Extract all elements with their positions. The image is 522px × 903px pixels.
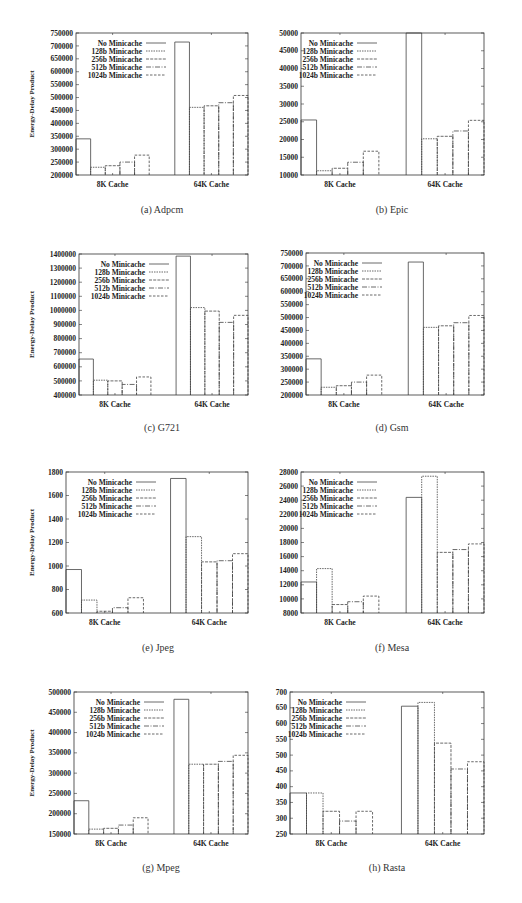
bar: [408, 262, 423, 395]
bar: [301, 582, 317, 613]
bar: [66, 570, 81, 613]
bar: [133, 818, 148, 834]
y-axis-label: Energy-Delay Product: [28, 70, 36, 138]
y-tick-label: 450000: [49, 708, 72, 717]
bar: [422, 476, 438, 613]
bar: [204, 764, 219, 834]
bar: [233, 554, 248, 613]
y-tick-label: 450000: [281, 326, 304, 335]
bar: [218, 761, 233, 834]
bar: [91, 167, 106, 175]
bar: [469, 315, 484, 395]
x-category-label: 8K Cache: [97, 180, 129, 189]
bar: [202, 562, 217, 613]
bar: [205, 311, 219, 395]
bar: [79, 359, 93, 395]
bar: [451, 769, 468, 834]
chart-panel-g: 8K Cache64K Cache15000020000025000030000…: [0, 670, 261, 895]
y-tick-label: 250: [276, 830, 288, 839]
bar: [189, 764, 204, 834]
y-tick-label: 40000: [279, 64, 298, 73]
y-tick-label: 400000: [281, 339, 304, 348]
y-tick-label: 150000: [49, 830, 72, 839]
y-tick-label: 650000: [51, 54, 74, 63]
bar: [418, 702, 435, 834]
bar: [301, 120, 317, 175]
bar: [76, 139, 91, 175]
y-tick-label: 1100000: [50, 292, 76, 301]
y-tick-label: 30000: [279, 100, 298, 109]
y-tick-label: 12000: [279, 580, 298, 589]
bar: [363, 151, 379, 175]
y-tick-label: 300: [276, 814, 288, 823]
panel-caption: (b) Epic: [292, 204, 492, 215]
y-tick-label: 900000: [54, 320, 77, 329]
legend-label: 1024b Minicache: [288, 730, 343, 739]
y-tick-label: 500: [276, 751, 288, 760]
chart-panel-a: 8K Cache64K Cache20000025000030000035000…: [0, 0, 261, 225]
bar: [434, 743, 451, 834]
bar: [348, 162, 364, 175]
y-tick-label: 250000: [49, 789, 72, 798]
y-tick-label: 1200: [48, 538, 63, 547]
y-tick-label: 700000: [51, 42, 74, 51]
y-tick-label: 600000: [281, 287, 304, 296]
y-tick-label: 300000: [49, 769, 72, 778]
y-tick-label: 20000: [279, 135, 298, 144]
x-category-label: 8K Cache: [89, 618, 121, 627]
bar: [317, 569, 333, 613]
y-tick-label: 350: [276, 798, 288, 807]
bar: [112, 608, 127, 613]
bar: [108, 381, 122, 395]
bar: [174, 699, 189, 834]
bar: [401, 706, 418, 834]
y-axis-label: Energy-Delay Product: [28, 508, 36, 576]
x-category-label: 64K Cache: [427, 618, 463, 627]
y-tick-label: 1000: [48, 562, 63, 571]
bar: [307, 793, 324, 834]
bar-chart-adpcm: 8K Cache64K Cache20000025000030000035000…: [0, 0, 261, 225]
x-category-label: 8K Cache: [316, 839, 348, 848]
bar: [454, 323, 469, 395]
y-axis-label: Energy-Delay Product: [28, 729, 36, 797]
y-tick-label: 750000: [51, 29, 74, 38]
bar: [406, 497, 422, 613]
y-tick-label: 16000: [279, 552, 298, 561]
bar: [81, 600, 96, 613]
y-tick-label: 1400000: [50, 250, 77, 259]
panel-caption: (d) Gsm: [292, 422, 492, 433]
y-tick-label: 400000: [49, 728, 72, 737]
y-tick-label: 700: [276, 688, 288, 697]
x-category-label: 64K Cache: [194, 400, 230, 409]
bar: [189, 107, 204, 175]
chart-panel-b: 8K Cache64K Cache10000150002000025000300…: [261, 0, 522, 225]
y-tick-label: 35000: [279, 82, 298, 91]
y-tick-label: 300000: [281, 365, 304, 374]
chart-panel-f: 8K Cache64K Cache80001000012000140001600…: [261, 450, 522, 675]
legend-label: 1024b Minicache: [299, 510, 354, 519]
bar: [217, 561, 232, 613]
y-tick-label: 250000: [51, 158, 74, 167]
y-tick-label: 1600: [48, 491, 63, 500]
bar: [437, 552, 453, 613]
x-category-label: 8K Cache: [99, 400, 131, 409]
bar-chart-g721: 8K Cache64K Cache40000050000060000070000…: [0, 225, 261, 450]
bar: [468, 544, 484, 613]
bar: [317, 171, 333, 175]
y-tick-label: 50000: [279, 29, 298, 38]
y-tick-label: 45000: [279, 46, 298, 55]
bar: [234, 315, 248, 395]
legend-label: 1024b Minicache: [299, 71, 354, 80]
y-tick-label: 600000: [54, 362, 77, 371]
y-tick-label: 1200000: [50, 278, 77, 287]
panel-caption: (h) Rasta: [287, 862, 487, 873]
legend-label: 1024b Minicache: [91, 292, 146, 301]
y-tick-label: 1000000: [50, 306, 77, 315]
bar: [93, 380, 107, 395]
y-tick-label: 1800: [48, 468, 63, 477]
y-tick-label: 750000: [281, 249, 304, 258]
x-category-label: 8K Cache: [328, 400, 360, 409]
bar-chart-gsm: 8K Cache64K Cache20000025000030000035000…: [261, 225, 522, 450]
bar: [422, 139, 438, 175]
x-category-label: 64K Cache: [429, 400, 465, 409]
